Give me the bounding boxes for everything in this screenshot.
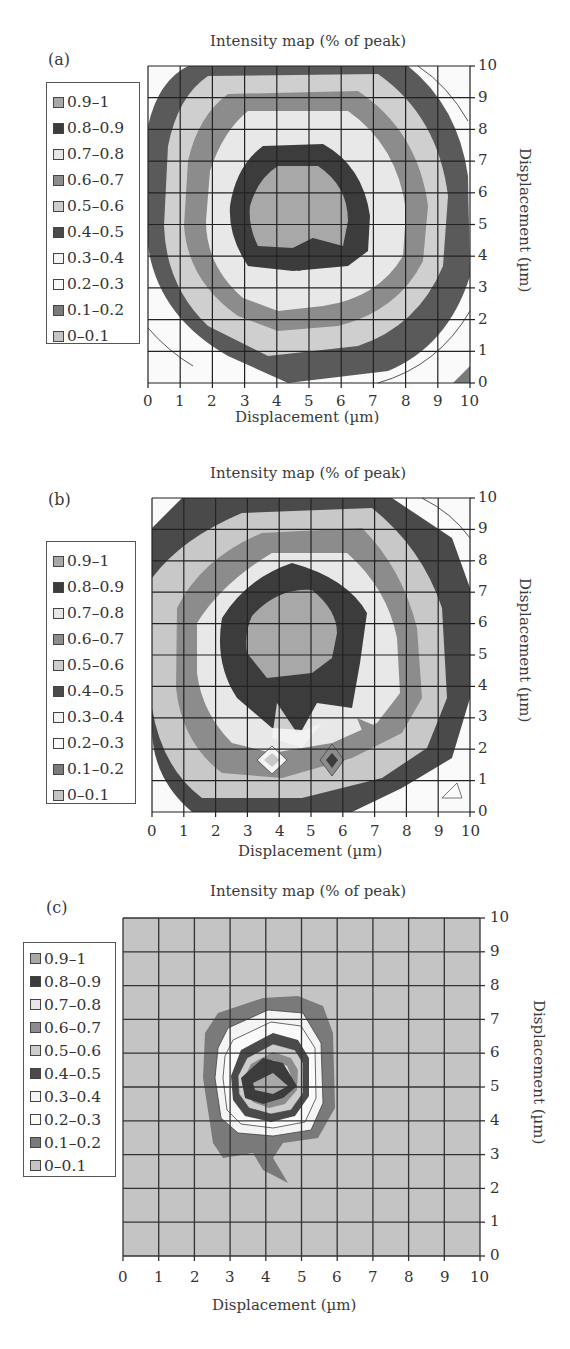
- x-tick: 1: [154, 1268, 164, 1286]
- x-axis-label: Displacement (µm): [235, 408, 379, 426]
- x-tick: 10: [470, 1268, 489, 1286]
- x-tick: 1: [179, 822, 189, 840]
- legend-swatch: [30, 953, 41, 964]
- legend-swatch: [53, 712, 64, 723]
- legend-item: 0.8–0.9: [53, 115, 139, 141]
- x-tick: 5: [306, 822, 316, 840]
- legend-item: 0.5–0.6: [30, 1039, 115, 1062]
- legend-item: 0.6–0.7: [53, 167, 139, 193]
- legend-item: 0.3–0.4: [30, 1085, 115, 1108]
- x-tick: 8: [401, 392, 411, 410]
- legend-swatch: [30, 1160, 41, 1171]
- legend-item: 0.5–0.6: [53, 193, 139, 219]
- x-tick: 2: [190, 1268, 200, 1286]
- y-tick: 5: [478, 215, 488, 233]
- y-tick: 4: [478, 676, 488, 694]
- legend-item: 0.7–0.8: [53, 141, 139, 167]
- legend-swatch: [53, 227, 64, 238]
- x-tick: 6: [338, 822, 348, 840]
- legend-swatch: [53, 305, 64, 316]
- x-axis-label: Displacement (µm): [238, 842, 382, 860]
- x-tick: 10: [460, 392, 479, 410]
- y-tick: 3: [478, 278, 488, 296]
- legend-item: 0.9–1: [53, 548, 135, 574]
- y-tick: 7: [478, 582, 488, 600]
- legend-swatch: [53, 738, 64, 749]
- y-tick: 9: [490, 942, 500, 960]
- y-tick: 5: [478, 645, 488, 663]
- y-tick: 6: [478, 613, 488, 631]
- legend-swatch: [53, 764, 64, 775]
- panel-b: Intensity map (% of peak) (b): [0, 430, 570, 870]
- y-tick: 2: [490, 1179, 500, 1197]
- x-tick: 0: [118, 1268, 128, 1286]
- legend-item: 0.9–1: [53, 89, 139, 115]
- legend-swatch: [53, 97, 64, 108]
- y-axis-label: Displacement (µm): [516, 578, 534, 722]
- y-tick: 4: [490, 1111, 500, 1129]
- y-tick: 6: [478, 183, 488, 201]
- legend-item: 0–0.1: [30, 1154, 115, 1177]
- legend-swatch: [53, 123, 64, 134]
- legend-swatch: [53, 279, 64, 290]
- legend: 0.9–1 0.8–0.9 0.7–0.8 0.6–0.7 0.5–0.6 0.…: [46, 82, 140, 344]
- y-tick: 3: [478, 707, 488, 725]
- y-tick: 8: [490, 976, 500, 994]
- x-tick: 3: [243, 822, 253, 840]
- legend-item: 0.4–0.5: [53, 219, 139, 245]
- legend-item: 0.4–0.5: [30, 1062, 115, 1085]
- legend: 0.9–1 0.8–0.9 0.7–0.8 0.6–0.7 0.5–0.6 0.…: [23, 942, 116, 1177]
- legend-swatch: [30, 1068, 41, 1079]
- legend-swatch: [53, 660, 64, 671]
- legend-swatch: [53, 790, 64, 801]
- y-tick: 10: [478, 488, 497, 506]
- x-tick: 1: [175, 392, 185, 410]
- x-tick: 6: [332, 1268, 342, 1286]
- y-axis-label: Displacement (µm): [530, 1000, 548, 1144]
- x-tick: 9: [434, 822, 444, 840]
- x-tick: 0: [147, 822, 157, 840]
- x-axis-label: Displacement (µm): [212, 1296, 356, 1314]
- y-tick: 1: [478, 341, 488, 359]
- x-tick: 9: [433, 392, 443, 410]
- legend-item: 0.9–1: [30, 947, 115, 970]
- legend-swatch: [30, 976, 41, 987]
- legend-swatch: [53, 201, 64, 212]
- legend-swatch: [53, 634, 64, 645]
- legend-item: 0.2–0.3: [53, 271, 139, 297]
- y-tick: 1: [478, 770, 488, 788]
- legend-swatch: [30, 1137, 41, 1148]
- legend-swatch: [30, 999, 41, 1010]
- y-tick: 2: [478, 310, 488, 328]
- panel-a: Intensity map (% of peak) (a): [0, 0, 570, 430]
- legend-item: 0.4–0.5: [53, 678, 135, 704]
- legend-item: 0.1–0.2: [53, 297, 139, 323]
- legend-swatch: [30, 1091, 41, 1102]
- y-tick: 9: [478, 519, 488, 537]
- x-tick: 2: [207, 392, 217, 410]
- y-tick: 8: [478, 551, 488, 569]
- legend-swatch: [30, 1045, 41, 1056]
- x-tick: 2: [211, 822, 221, 840]
- legend-item: 0–0.1: [53, 782, 135, 808]
- y-tick: 1: [490, 1212, 500, 1230]
- y-tick: 9: [478, 88, 488, 106]
- legend-swatch: [53, 556, 64, 567]
- y-tick: 7: [490, 1010, 500, 1028]
- legend-item: 0.2–0.3: [53, 730, 135, 756]
- legend: 0.9–1 0.8–0.9 0.7–0.8 0.6–0.7 0.5–0.6 0.…: [46, 541, 136, 804]
- x-tick: 7: [370, 822, 380, 840]
- legend-swatch: [53, 331, 64, 342]
- x-tick: 5: [297, 1268, 307, 1286]
- legend-swatch: [53, 149, 64, 160]
- x-tick: 7: [368, 1268, 378, 1286]
- legend-item: 0.8–0.9: [53, 574, 135, 600]
- x-tick: 4: [261, 1268, 271, 1286]
- y-tick: 6: [490, 1043, 500, 1061]
- y-tick: 10: [490, 908, 509, 926]
- y-tick-labels: 10 9 8 7 6 5 4 3 2 1 0: [490, 870, 520, 1349]
- y-tick: 5: [490, 1077, 500, 1095]
- x-tick-labels: 0 1 2 3 4 5 6 7 8 9 10: [0, 1268, 570, 1288]
- y-tick: 10: [478, 56, 497, 74]
- y-tick: 0: [478, 802, 488, 820]
